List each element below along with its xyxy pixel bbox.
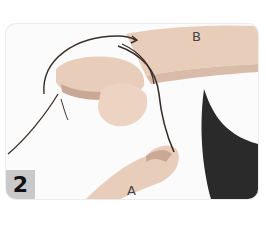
step-number-badge: 2 bbox=[6, 170, 35, 199]
hand-a-upper bbox=[98, 83, 147, 126]
cord-tail bbox=[8, 94, 58, 154]
label-b: B bbox=[192, 29, 201, 44]
instruction-photo: B A 2 bbox=[6, 24, 258, 199]
photo-illustration bbox=[6, 24, 258, 199]
label-a: A bbox=[127, 183, 136, 198]
clothing-shape bbox=[202, 89, 258, 199]
